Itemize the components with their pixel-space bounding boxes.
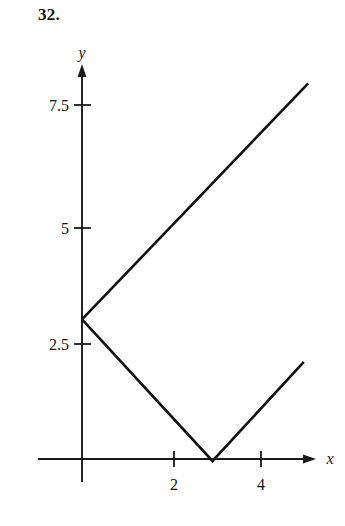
graph-plot: 7.5 5 2.5 2 4 y x bbox=[0, 0, 345, 526]
y-tick-label-7.5: 7.5 bbox=[49, 97, 69, 114]
y-axis-label: y bbox=[76, 44, 86, 62]
figure-32: 32. 7.5 5 2.5 2 4 y x bbox=[0, 0, 345, 526]
data-line-v-branch bbox=[82, 319, 304, 461]
x-axis bbox=[38, 455, 316, 464]
y-tick-label-2.5: 2.5 bbox=[49, 336, 69, 353]
data-line-upper-ray bbox=[82, 83, 308, 319]
x-axis-arrowhead bbox=[303, 455, 316, 464]
x-axis-label: x bbox=[325, 450, 333, 467]
y-axis-arrowhead bbox=[78, 64, 87, 77]
x-tick-label-2: 2 bbox=[170, 476, 178, 493]
x-tick-label-4: 4 bbox=[257, 476, 265, 493]
y-axis bbox=[78, 64, 87, 482]
y-tick-label-5: 5 bbox=[61, 220, 69, 237]
